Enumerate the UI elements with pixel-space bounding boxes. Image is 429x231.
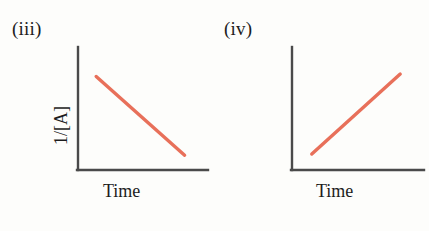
panel-iii: (iii) 1/[A] Time	[0, 0, 215, 231]
panel-iv-x-axis-title: Time	[316, 182, 353, 200]
panel-iii-y-axis-title: 1/[A]	[52, 106, 70, 145]
panel-iii-x-axis-title: Time	[103, 182, 140, 200]
panel-iv: (iv) 1/[A] Time	[215, 0, 429, 231]
panel-iii-trend-line	[96, 77, 184, 156]
panel-iv-trend-line	[312, 74, 400, 154]
figure-root: (iii) 1/[A] Time (iv) 1/[A] Time	[0, 0, 429, 231]
